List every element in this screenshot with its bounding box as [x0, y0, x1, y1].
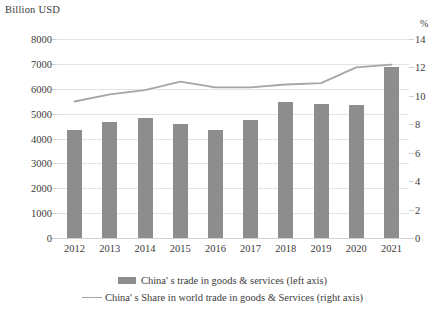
legend-label-share: China' s Share in world trade in goods &…	[105, 292, 363, 303]
left-axis-tick: 0	[6, 233, 52, 244]
right-axis-tick: 0	[415, 233, 445, 244]
left-axis-tick: 7000	[6, 58, 52, 69]
right-axis-tickmark	[409, 238, 414, 239]
legend-item-trade: China' s trade in goods & services (left…	[0, 272, 445, 289]
chart-container: Billion USD % 80007000600050004000300020…	[0, 0, 445, 311]
legend-label-trade: China' s trade in goods & services (left…	[141, 275, 327, 286]
left-axis-tick: 8000	[6, 34, 52, 45]
right-axis-tick: 8	[415, 119, 445, 130]
legend-item-share: China' s Share in world trade in goods &…	[0, 289, 445, 306]
left-axis-title: Billion USD	[5, 4, 60, 15]
right-axis-title: %	[420, 18, 429, 29]
x-axis-tick: 2020	[339, 243, 374, 254]
share-line	[75, 65, 392, 102]
right-axis-tick: 4	[415, 176, 445, 187]
right-axis-tickmark	[409, 124, 414, 125]
left-axis-tick: 2000	[6, 183, 52, 194]
right-axis-tickmark	[409, 181, 414, 182]
gridline	[57, 238, 409, 239]
left-axis-tick: 1000	[6, 208, 52, 219]
bar-swatch-icon	[118, 277, 136, 284]
left-axis-tick: 4000	[6, 133, 52, 144]
x-axis-tick: 2016	[198, 243, 233, 254]
left-axis-tick: 5000	[6, 108, 52, 119]
right-axis-tick: 2	[415, 204, 445, 215]
right-axis-tick: 10	[415, 90, 445, 101]
x-axis-tick: 2019	[303, 243, 338, 254]
right-axis-tick: 14	[415, 34, 445, 45]
x-axis-tick: 2012	[57, 243, 92, 254]
right-axis-tick: 12	[415, 62, 445, 73]
right-axis-tickmark	[409, 153, 414, 154]
right-axis-tickmark	[409, 39, 414, 40]
left-axis-tick: 6000	[6, 83, 52, 94]
x-axis-tick: 2015	[163, 243, 198, 254]
right-axis-tickmark	[409, 67, 414, 68]
x-axis-tick: 2018	[268, 243, 303, 254]
chart-legend: China' s trade in goods & services (left…	[0, 272, 445, 306]
right-axis-tickmark	[409, 210, 414, 211]
x-axis-tick: 2014	[127, 243, 162, 254]
line-swatch-icon	[82, 297, 102, 298]
plot-area	[57, 39, 409, 238]
right-axis-tick: 6	[415, 147, 445, 158]
x-axis-tick: 2017	[233, 243, 268, 254]
left-axis-tick: 3000	[6, 158, 52, 169]
right-axis-tickmark	[409, 96, 414, 97]
line-series	[57, 39, 409, 238]
x-axis-tick: 2013	[92, 243, 127, 254]
x-axis-tick: 2021	[374, 243, 409, 254]
